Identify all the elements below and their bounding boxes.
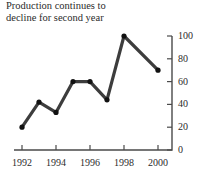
y-tick-label-100: 100 bbox=[178, 31, 193, 41]
y-tick-label-20: 20 bbox=[178, 122, 188, 132]
plot-area: 100 80 60 40 20 0 1992 1994 1996 1998 20… bbox=[0, 0, 201, 175]
chart-screenshot: Production continues to decline for seco… bbox=[0, 0, 201, 175]
y-axis-ticks bbox=[167, 36, 172, 150]
x-tick-label-1996: 1996 bbox=[73, 158, 107, 168]
data-point-1995 bbox=[70, 79, 75, 84]
y-tick-label-0: 0 bbox=[178, 145, 183, 155]
x-axis-ticks bbox=[22, 145, 158, 150]
data-point-1992 bbox=[19, 125, 24, 130]
x-tick-label-2000: 2000 bbox=[141, 158, 175, 168]
y-tick-label-60: 60 bbox=[178, 77, 188, 87]
x-tick-label-1994: 1994 bbox=[39, 158, 73, 168]
x-tick-label-1992: 1992 bbox=[5, 158, 39, 168]
data-point-1993 bbox=[36, 100, 41, 105]
data-series-group bbox=[19, 33, 160, 129]
data-markers bbox=[19, 33, 160, 129]
data-point-1997 bbox=[104, 97, 109, 102]
line-chart-svg bbox=[0, 0, 201, 175]
y-tick-label-80: 80 bbox=[178, 54, 188, 64]
data-point-1994 bbox=[53, 110, 58, 115]
y-tick-label-40: 40 bbox=[178, 99, 188, 109]
axis-lines bbox=[14, 36, 172, 150]
axes-group bbox=[14, 36, 172, 150]
data-point-2000 bbox=[155, 68, 160, 73]
data-point-1996 bbox=[87, 79, 92, 84]
data-point-1998 bbox=[121, 33, 126, 38]
x-tick-label-1998: 1998 bbox=[107, 158, 141, 168]
